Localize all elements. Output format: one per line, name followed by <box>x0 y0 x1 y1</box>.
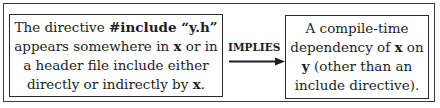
conclusion-line1: A compile-time <box>306 20 409 36</box>
conclusion-line2-prefix: dependency of <box>290 39 394 55</box>
var-x: x <box>193 76 201 92</box>
premise-line1-prefix: The directive <box>14 19 109 35</box>
conclusion-line4: include directive). <box>295 77 419 93</box>
conclusion-line2-suffix: on <box>403 39 424 55</box>
conclusion-text: A compile-time dependency of x on y (oth… <box>286 19 427 95</box>
right-arrow-icon <box>229 57 285 66</box>
var-x: x <box>173 38 181 54</box>
premise-line2-suffix: or in <box>182 38 218 54</box>
conclusion-line3-suffix: (other than an <box>310 58 412 74</box>
var-y: y <box>302 58 310 74</box>
conclusion-box: A compile-time dependency of x on y (oth… <box>285 15 429 99</box>
premise-line4-prefix: directly or indirectly by <box>27 76 193 92</box>
premise-line2-prefix: appears somewhere in <box>14 38 173 54</box>
premise-text: The directive #include “y.h” appears som… <box>10 18 221 94</box>
implies-label: IMPLIES <box>228 41 286 53</box>
premise-box: The directive #include “y.h” appears som… <box>9 14 223 97</box>
var-x: x <box>395 39 403 55</box>
include-directive: #include “y.h” <box>109 19 218 35</box>
premise-line3: a header file include either <box>23 57 208 73</box>
premise-line4-suffix: . <box>201 76 205 92</box>
